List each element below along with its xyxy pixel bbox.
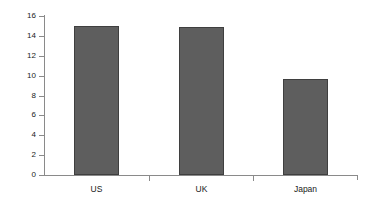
x-axis-category-label: UK [149, 184, 254, 194]
y-axis-tick-label: 10 [10, 72, 36, 80]
x-axis-category-label: US [44, 184, 149, 194]
y-axis-tick-label: 14 [10, 32, 36, 40]
plot-area: 0246810121416 USUKJapan [0, 0, 371, 208]
y-axis-tick [39, 96, 44, 97]
x-axis-tick [149, 176, 150, 181]
bar-us [74, 26, 119, 175]
y-axis-tick-label: 8 [10, 92, 36, 100]
x-axis-tick [253, 176, 254, 181]
y-axis-line [44, 15, 45, 176]
x-axis-end-tick [357, 175, 358, 180]
y-axis-tick [39, 76, 44, 77]
x-axis-line [44, 175, 358, 176]
y-axis-tick [39, 135, 44, 136]
y-axis-tick [39, 16, 44, 17]
y-axis-tick-label: 16 [10, 12, 36, 20]
bar-chart: 0246810121416 USUKJapan [0, 0, 371, 208]
y-axis-tick-label: 2 [10, 151, 36, 159]
y-axis-tick-label: 0 [10, 171, 36, 179]
y-axis-tick [39, 115, 44, 116]
y-axis-tick [39, 36, 44, 37]
y-axis-tick [39, 175, 44, 176]
bar-japan [283, 79, 328, 175]
y-axis-tick [39, 155, 44, 156]
y-axis-tick-label: 6 [10, 111, 36, 119]
bar-uk [179, 27, 224, 175]
y-axis-tick [39, 56, 44, 57]
x-axis-category-label: Japan [253, 184, 358, 194]
y-axis-tick-label: 12 [10, 52, 36, 60]
y-axis-tick-label: 4 [10, 131, 36, 139]
